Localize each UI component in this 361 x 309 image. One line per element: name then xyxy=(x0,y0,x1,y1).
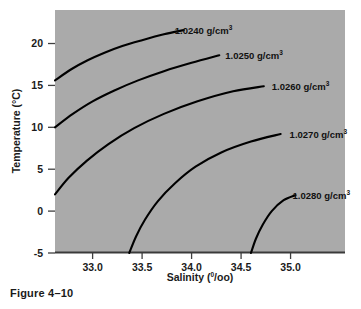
x-axis-title-main: Salinity ( xyxy=(167,271,211,283)
contour-label-unit: g/cm xyxy=(321,129,343,140)
x-axis-title: Salinity (0/oo) xyxy=(167,271,234,283)
contour-label-superscript: 3 xyxy=(229,24,233,31)
contour-label-value: 1.0270 xyxy=(290,129,322,140)
y-axis-tick-label: 10 xyxy=(31,121,43,133)
contour-label-superscript: 3 xyxy=(344,128,348,135)
contour-label-unit: g/cm xyxy=(324,190,346,201)
figure-caption: Figure 4–10 xyxy=(10,287,73,299)
contour-label: 1.0280 g/cm3 xyxy=(293,189,351,201)
contour-label-superscript: 3 xyxy=(346,189,350,196)
x-axis-tick-group: 33.033.534.034.535.0 xyxy=(82,253,301,273)
y-axis-tick-label: -5 xyxy=(34,247,43,259)
contour-label-value: 1.0260 xyxy=(272,81,304,92)
contour-label: 1.0240 g/cm3 xyxy=(175,24,233,36)
y-axis-tick-group: 20151050-5 xyxy=(31,37,55,258)
x-axis-tick-label: 33.5 xyxy=(132,261,153,273)
x-axis-tick-label: 35.0 xyxy=(280,261,301,273)
contour-label-unit: g/cm xyxy=(207,25,229,36)
density-salinity-temperature-chart: 20151050-5 33.033.534.034.535.0 1.0240 g… xyxy=(0,0,361,309)
contour-label-unit: g/cm xyxy=(257,50,279,61)
contour-label-superscript: 3 xyxy=(326,80,330,87)
y-axis-tick-label: 15 xyxy=(31,79,43,91)
x-axis-tick-label: 33.0 xyxy=(82,261,103,273)
y-axis-title: Temperature (°C) xyxy=(10,89,22,174)
x-axis-tick-label: 34.5 xyxy=(231,261,252,273)
contour-label-superscript: 3 xyxy=(279,49,283,56)
x-axis-title-tail: /oo) xyxy=(214,271,233,283)
contour-label-value: 1.0250 xyxy=(225,50,257,61)
contour-label: 1.0270 g/cm3 xyxy=(290,128,348,140)
y-axis-tick-label: 5 xyxy=(37,163,43,175)
contour-label-unit: g/cm xyxy=(304,81,326,92)
y-axis-tick-label: 0 xyxy=(37,205,43,217)
contour-label-value: 1.0280 xyxy=(293,190,325,201)
figure-container: 20151050-5 33.033.534.034.535.0 1.0240 g… xyxy=(0,0,361,309)
y-axis-tick-label: 20 xyxy=(31,37,43,49)
contour-label: 1.0260 g/cm3 xyxy=(272,80,330,92)
contour-label: 1.0250 g/cm3 xyxy=(225,49,283,61)
contour-label-value: 1.0240 xyxy=(175,25,207,36)
